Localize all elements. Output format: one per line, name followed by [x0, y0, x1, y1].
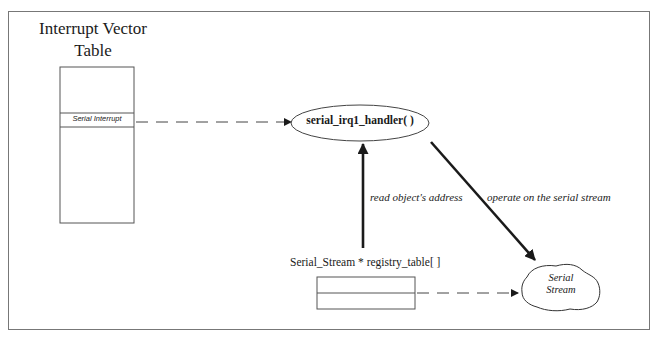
registry-table-label: Serial_Stream * registry_table[ ]	[290, 256, 440, 268]
registry-table	[317, 277, 415, 309]
handler-label: serial_irq1_handler( )	[292, 114, 428, 126]
serial-stream-label: Serial Stream	[529, 272, 593, 296]
serial-interrupt-entry: Serial Interrupt	[60, 114, 134, 123]
interrupt-vector-table-title: Interrupt Vector Table	[20, 18, 166, 62]
ivt-title-line2: Table	[20, 40, 166, 62]
interrupt-vector-table	[60, 67, 134, 223]
ivt-title-line1: Interrupt Vector	[20, 18, 166, 40]
serial-stream-line1: Serial	[529, 272, 593, 284]
serial-stream-line2: Stream	[529, 284, 593, 296]
operate-stream-label: operate on the serial stream	[487, 191, 611, 203]
read-address-label: read object's address	[370, 191, 463, 203]
